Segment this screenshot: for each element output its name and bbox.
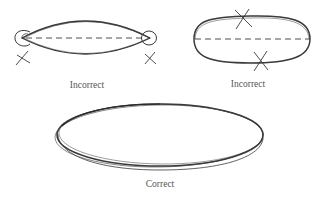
x-mark-left (16, 51, 30, 65)
label-correct-ellipse: Correct (135, 179, 185, 189)
x-mark-right (145, 52, 156, 64)
label-flat-ellipse: Incorrect (223, 79, 273, 89)
flat-ellipse-figure (194, 9, 310, 71)
correct-ellipse-figure (55, 103, 264, 170)
x-mark-bottom (254, 51, 268, 71)
pointed-ellipse-figure (15, 21, 157, 65)
ellipse-diagram (0, 0, 320, 197)
label-pointed-ellipse: Incorrect (62, 80, 112, 90)
x-mark-top (235, 9, 252, 29)
